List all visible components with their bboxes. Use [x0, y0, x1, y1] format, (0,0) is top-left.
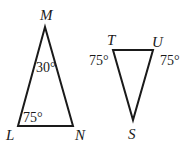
vertex-label-l: L — [5, 127, 14, 143]
triangle-tus: T U S 75° 75° — [89, 32, 180, 142]
angle-label-t: 75° — [89, 53, 109, 68]
vertex-label-u: U — [152, 34, 164, 50]
vertex-label-s: S — [128, 126, 136, 142]
vertex-label-t: T — [107, 32, 117, 48]
geometry-diagram: M L N 30° 75° T U S 75° 75° — [0, 0, 187, 145]
vertex-label-m: M — [39, 7, 54, 23]
angle-label-m: 30° — [36, 60, 56, 75]
angle-label-l: 75° — [23, 110, 43, 125]
angle-label-u: 75° — [160, 53, 180, 68]
triangle-tus-shape — [113, 50, 153, 120]
vertex-label-n: N — [74, 127, 86, 143]
triangle-lmn: M L N 30° 75° — [5, 7, 86, 143]
